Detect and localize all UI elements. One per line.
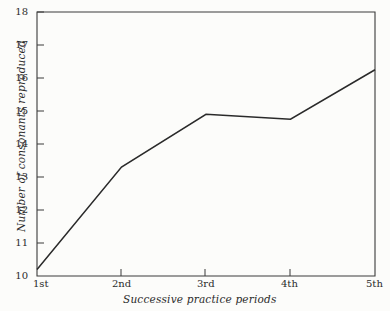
y-tick-label-10: 10	[4, 271, 28, 281]
x-tick-label-5th: 5th	[366, 279, 383, 289]
line-chart-figure: 18 17 16 15 14 13 12 11 10 1st 2nd 3rd 4…	[0, 0, 390, 311]
x-tick-label-3rd: 3rd	[197, 279, 215, 289]
data-series-line	[37, 70, 375, 270]
chart-plot-svg	[0, 0, 390, 311]
x-tick-label-1st: 1st	[33, 279, 49, 289]
axis-frame	[37, 12, 375, 276]
axis-frame-rect	[37, 12, 375, 276]
y-tick-label-11: 11	[4, 238, 28, 248]
x-axis-ticks	[121, 269, 290, 276]
y-tick-label-18: 18	[4, 7, 28, 17]
x-axis-title: Successive practice periods	[123, 294, 277, 305]
x-tick-label-2nd: 2nd	[112, 279, 131, 289]
x-tick-label-4th: 4th	[281, 279, 298, 289]
y-axis-title: Number of consonants reproduced	[16, 40, 27, 232]
y-axis-ticks	[37, 12, 44, 243]
